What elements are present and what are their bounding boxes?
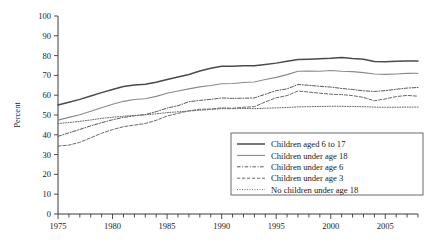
y-tick-label: 40 — [43, 130, 52, 140]
y-tick-label: 90 — [43, 31, 52, 41]
x-tick-label: 1985 — [159, 221, 176, 231]
y-tick-label: 10 — [43, 189, 52, 199]
x-axis: 1975198019851990199520002005 — [50, 214, 419, 231]
legend-label-3: Children under age 6 — [271, 162, 344, 172]
y-tick-label: 100 — [38, 11, 51, 21]
series-line-2 — [58, 70, 418, 120]
legend-label-4: Children under age 3 — [271, 173, 343, 183]
y-tick-label: 0 — [47, 209, 51, 219]
y-tick-label: 80 — [43, 51, 52, 61]
x-tick-label: 1990 — [213, 221, 230, 231]
line-chart: 0102030405060708090100Percent19751980198… — [0, 0, 428, 248]
y-tick-label: 50 — [43, 110, 52, 120]
series-line-5 — [58, 106, 418, 123]
y-tick-label: 60 — [43, 90, 52, 100]
x-tick-label: 1980 — [104, 221, 121, 231]
legend-label-5: No children under age 18 — [271, 185, 358, 195]
x-tick-label: 2000 — [322, 221, 339, 231]
series-line-3 — [58, 85, 418, 137]
y-axis: 0102030405060708090100 — [38, 11, 58, 219]
x-tick-label: 2005 — [377, 221, 394, 231]
chart-canvas: 0102030405060708090100Percent19751980198… — [0, 0, 428, 248]
y-tick-label: 70 — [43, 70, 52, 80]
y-tick-label: 20 — [43, 169, 52, 179]
y-axis-title: Percent — [12, 102, 22, 128]
legend-label-1: Children aged 6 to 17 — [271, 139, 346, 149]
legend-label-2: Children under age 18 — [271, 151, 348, 161]
legend: Children aged 6 to 17Children under age … — [231, 133, 423, 195]
x-tick-label: 1975 — [50, 221, 67, 231]
y-tick-label: 30 — [43, 150, 52, 160]
x-tick-label: 1995 — [268, 221, 285, 231]
